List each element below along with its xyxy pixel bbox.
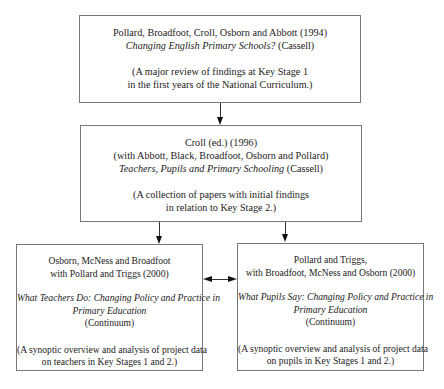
node-osborn-2000: Osborn, McNess and Broadfoot with Pollar… [16,244,203,371]
spacer [17,330,202,344]
spacer [80,52,360,65]
node-title-line1: What Teachers Do: Changing Policy and Pr… [17,292,202,305]
spacer [238,329,423,343]
node-authors-line2: with Pollard and Triggs (2000) [17,268,202,281]
node-title-line2: Primary Education [238,304,423,317]
spacer [17,280,202,292]
node-publisher: (Cassell) [278,40,314,51]
node-authors-line1: Osborn, McNess and Broadfoot [17,255,202,268]
node-note-line2: in the first years of the National Curri… [80,78,360,91]
arrowhead-down-icon [156,236,162,244]
node-title-line: Teachers, Pupils and Primary Schooling (… [81,162,361,175]
node-publisher: (Cassell) [287,163,323,174]
edge-line-1-2 [220,103,221,118]
node-authors-line1: Pollard and Triggs, [238,254,423,267]
node-title: Teachers, Pupils and Primary Schooling [119,163,284,174]
node-publisher: (Continuum) [238,316,423,329]
edge-line-2-3 [159,222,160,237]
node-note-line2: on pupils in Key Stages 1 and 2.) [238,355,423,368]
node-note-line1: (A synoptic overview and analysis of pro… [17,344,202,357]
node-pollard-1994: Pollard, Broadfoot, Croll, Osborn and Ab… [79,15,361,103]
node-note-line1: (A synoptic overview and analysis of pro… [238,343,423,356]
spacer [81,175,361,188]
node-authors: Pollard, Broadfoot, Croll, Osborn and Ab… [80,26,360,39]
node-title-line: Changing English Primary Schools? (Casse… [80,39,360,52]
arrowhead-right-icon [228,276,237,282]
spacer [238,279,423,291]
edge-line-3-4 [210,279,230,280]
node-publisher: (Continuum) [17,317,202,330]
node-note-line2: in relation to Key Stage 2.) [81,201,361,214]
node-title: Changing English Primary Schools? [126,40,276,51]
node-note-line1: (A collection of papers with initial fin… [81,188,361,201]
arrowhead-down-icon [217,117,223,125]
node-pollard-triggs-2000: Pollard and Triggs, with Broadfoot, McNe… [237,243,424,371]
arrowhead-down-icon [282,234,288,242]
node-authors-line2: (with Abbott, Black, Broadfoot, Osborn a… [81,149,361,162]
node-title-line2: Primary Education [17,305,202,318]
node-note-line1: (A major review of findings at Key Stage… [80,65,360,78]
arrowhead-left-icon [203,276,212,282]
node-title-line1: What Pupils Say: Changing Policy and Pra… [238,291,423,304]
node-authors-line2: with Broadfoot, McNess and Osborn (2000) [238,267,423,280]
node-croll-1996: Croll (ed.) (1996) (with Abbott, Black, … [80,125,362,222]
node-note-line2: on teachers in Key Stages 1 and 2.) [17,356,202,369]
node-authors-line1: Croll (ed.) (1996) [81,136,361,149]
